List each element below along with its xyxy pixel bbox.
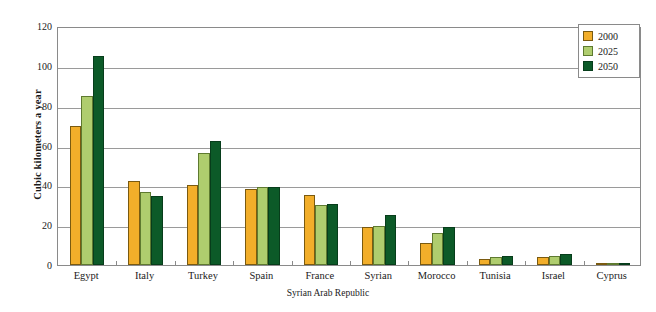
- x-tick-mark: [116, 261, 117, 265]
- bar[interactable]: [596, 263, 608, 265]
- x-tick-mark: [350, 261, 351, 265]
- y-tick-label: 80: [0, 102, 52, 112]
- bar[interactable]: [560, 254, 572, 265]
- x-tick-mark: [584, 261, 585, 265]
- bar-group: [479, 28, 514, 265]
- bar[interactable]: [210, 141, 222, 265]
- bar[interactable]: [490, 257, 502, 265]
- bar[interactable]: [432, 233, 444, 265]
- x-tick-label: Spain: [232, 270, 290, 282]
- chart-legend: 200020252050: [578, 24, 640, 78]
- bar-group: [128, 28, 163, 265]
- x-tick-label: Italy: [115, 270, 173, 282]
- bar[interactable]: [443, 227, 455, 265]
- bar-group: [245, 28, 280, 265]
- bar[interactable]: [268, 187, 280, 265]
- y-axis-tick-labels: 020406080100120: [0, 0, 52, 312]
- x-tick-label: Syrian: [349, 270, 407, 282]
- bar[interactable]: [70, 126, 82, 265]
- x-tick-label: Turkey: [174, 270, 232, 282]
- bar[interactable]: [362, 227, 374, 265]
- bar-group: [537, 28, 572, 265]
- bar[interactable]: [327, 204, 339, 265]
- bar[interactable]: [619, 263, 631, 265]
- bar[interactable]: [373, 226, 385, 265]
- x-tick-label: Morocco: [407, 270, 465, 282]
- bar[interactable]: [151, 196, 163, 265]
- legend-item[interactable]: 2000: [583, 29, 635, 43]
- x-tick-label: Egypt: [57, 270, 115, 282]
- bar[interactable]: [187, 185, 199, 265]
- y-tick-label: 60: [0, 142, 52, 152]
- x-tick-mark: [408, 261, 409, 265]
- bar-group: [187, 28, 222, 265]
- legend-label: 2025: [598, 46, 618, 57]
- y-tick-label: 20: [0, 221, 52, 231]
- bars-layer: [58, 28, 640, 265]
- bar[interactable]: [537, 257, 549, 265]
- bar[interactable]: [81, 96, 93, 265]
- legend-swatch-icon: [583, 46, 593, 56]
- y-tick-label: 40: [0, 181, 52, 191]
- legend-label: 2000: [598, 31, 618, 42]
- bar-group: [420, 28, 455, 265]
- bar[interactable]: [607, 263, 619, 265]
- x-tick-mark: [233, 261, 234, 265]
- x-tick-mark: [292, 261, 293, 265]
- bar-chart: Cubic kilometers a year 020406080100120 …: [0, 0, 656, 312]
- bar[interactable]: [245, 189, 257, 265]
- bar-group: [70, 28, 105, 265]
- x-tick-label: Israel: [524, 270, 582, 282]
- y-tick-label: 0: [0, 261, 52, 271]
- bar[interactable]: [315, 205, 327, 265]
- plot-area: [57, 27, 641, 266]
- y-tick-label: 120: [0, 22, 52, 32]
- x-tick-label: France: [291, 270, 349, 282]
- legend-item[interactable]: 2050: [583, 59, 635, 73]
- bar[interactable]: [420, 243, 432, 265]
- y-tick-label: 100: [0, 62, 52, 72]
- bar[interactable]: [140, 192, 152, 265]
- x-tick-label: Tunisia: [466, 270, 524, 282]
- x-tick-mark: [175, 261, 176, 265]
- bar[interactable]: [257, 187, 269, 265]
- x-tick-mark: [467, 261, 468, 265]
- bar[interactable]: [198, 153, 210, 265]
- bar[interactable]: [549, 256, 561, 265]
- legend-label: 2050: [598, 61, 618, 72]
- bar-group: [362, 28, 397, 265]
- x-axis-title: Syrian Arab Republic: [0, 288, 656, 298]
- bar[interactable]: [304, 195, 316, 265]
- bar[interactable]: [479, 259, 491, 265]
- bar[interactable]: [93, 56, 105, 265]
- legend-swatch-icon: [583, 31, 593, 41]
- bar[interactable]: [385, 215, 397, 265]
- bar[interactable]: [502, 256, 514, 265]
- bar[interactable]: [128, 181, 140, 265]
- x-tick-mark: [525, 261, 526, 265]
- x-tick-label: Cyprus: [583, 270, 641, 282]
- x-axis-tick-labels: EgyptItalyTurkeySpainFranceSyrianMorocco…: [57, 270, 641, 286]
- legend-swatch-icon: [583, 61, 593, 71]
- legend-item[interactable]: 2025: [583, 44, 635, 58]
- bar-group: [304, 28, 339, 265]
